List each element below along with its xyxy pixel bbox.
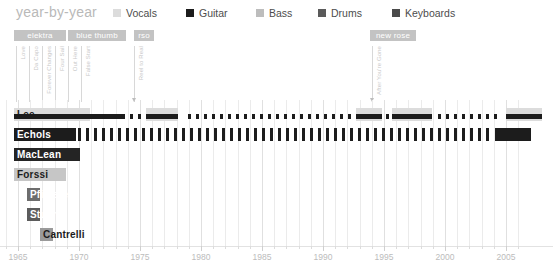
- timeline-row[interactable]: Echols: [0, 125, 553, 145]
- activity-segment: [446, 114, 449, 119]
- album-tick: [55, 46, 56, 102]
- activity-segment: [134, 128, 137, 141]
- album-title: Love: [20, 46, 26, 59]
- album-tick: [68, 46, 69, 102]
- activity-segment: [270, 128, 273, 141]
- axis-tick-minor: [42, 246, 43, 249]
- activity-segment: [206, 128, 209, 141]
- axis-tick-label: 1980: [192, 252, 211, 262]
- activity-segment: [334, 128, 337, 141]
- activity-segment: [252, 114, 255, 119]
- record-label-badge[interactable]: blue thumb: [68, 30, 126, 41]
- timeline-row[interactable]: Forssi: [0, 165, 553, 185]
- album-tick: [81, 46, 82, 102]
- activity-segment: [356, 114, 382, 119]
- legend-swatch-icon: [256, 9, 264, 17]
- axis-tick-minor: [482, 246, 483, 249]
- axis-tick-minor: [189, 246, 190, 249]
- activity-segment: [308, 114, 311, 119]
- timeline-plot: LeeEcholsMacLeanForssiPfistererStuartCan…: [0, 100, 553, 246]
- timeline-row[interactable]: Stuart: [0, 205, 553, 225]
- activity-segment: [332, 114, 335, 119]
- activity-segment: [386, 114, 389, 119]
- axis-tick-minor: [274, 246, 275, 249]
- album-tick: [16, 46, 17, 102]
- activity-segment: [316, 114, 319, 119]
- record-label-badge[interactable]: new rose: [370, 30, 416, 41]
- activity-segment: [342, 128, 345, 141]
- album-title: Four Sail: [59, 46, 65, 71]
- activity-segment: [506, 114, 542, 119]
- activity-segment: [260, 114, 263, 119]
- axis-tick-label: 1985: [253, 252, 272, 262]
- axis-tick-minor: [457, 246, 458, 249]
- axis-tick-minor: [469, 246, 470, 249]
- axis-tick-label: 1995: [375, 252, 394, 262]
- album-title: False Start: [85, 46, 91, 76]
- legend-item-drums[interactable]: Drums: [318, 6, 362, 20]
- timeline-row[interactable]: Lee: [0, 105, 553, 125]
- legend-swatch-icon: [392, 9, 400, 17]
- timeline-row[interactable]: Cantrelli: [0, 225, 553, 245]
- album-title: Da Capo: [33, 46, 39, 70]
- activity-segment: [102, 128, 105, 141]
- axis-tick-minor: [152, 246, 153, 249]
- axis-tick-minor: [347, 246, 348, 249]
- activity-segment: [366, 128, 369, 141]
- activity-segment: [462, 128, 465, 141]
- axis-tick-minor: [518, 246, 519, 249]
- axis-tick-minor: [360, 246, 361, 249]
- axis-tick-minor: [30, 246, 31, 249]
- annotation-band: elektrablue thumbrsonew roseLoveDa CapoF…: [0, 28, 553, 102]
- axis-tick-label: 1990: [314, 252, 333, 262]
- legend-item-bass[interactable]: Bass: [256, 6, 292, 20]
- record-label-badge[interactable]: rso: [134, 30, 154, 41]
- axis-tick-minor: [91, 246, 92, 249]
- activity-segment: [300, 114, 303, 119]
- axis-tick-minor: [225, 246, 226, 249]
- axis-tick-label: 2000: [436, 252, 455, 262]
- activity-segment: [374, 128, 377, 141]
- axis-tick-minor: [128, 246, 129, 249]
- activity-segment: [174, 128, 177, 141]
- activity-segment: [138, 114, 141, 119]
- axis-tick-major: [323, 246, 324, 251]
- activity-segment: [158, 128, 161, 141]
- activity-segment: [350, 128, 353, 141]
- activity-segment: [486, 128, 489, 141]
- axis-tick-major: [79, 246, 80, 251]
- axis-tick-label: 1970: [70, 252, 89, 262]
- activity-segment: [94, 128, 97, 141]
- axis-tick-minor: [250, 246, 251, 249]
- record-label-badge[interactable]: elektra: [14, 30, 66, 41]
- activity-segment: [214, 128, 217, 141]
- activity-segment: [262, 128, 265, 141]
- axis-tick-minor: [311, 246, 312, 249]
- activity-segment: [292, 114, 295, 119]
- activity-segment: [406, 128, 409, 141]
- activity-segment: [398, 128, 401, 141]
- legend-item-vocals[interactable]: Vocals: [113, 6, 157, 20]
- chart-title: year-by-year: [16, 4, 97, 20]
- legend-item-keyboards[interactable]: Keyboards: [392, 6, 455, 20]
- timeline-row[interactable]: Pfisterer: [0, 185, 553, 205]
- activity-segment: [86, 128, 89, 141]
- activity-segment: [236, 114, 239, 119]
- axis-tick-minor: [213, 246, 214, 249]
- axis-tick-minor: [494, 246, 495, 249]
- album-tick: [42, 46, 43, 102]
- member-name-label: Echols: [14, 128, 51, 141]
- legend-item-guitar[interactable]: Guitar: [186, 6, 228, 20]
- album-tick: [372, 46, 373, 102]
- activity-segment: [382, 128, 385, 141]
- legend-label: Guitar: [199, 7, 228, 19]
- activity-segment: [422, 128, 425, 141]
- x-axis: 196519701975198019851990199520002005: [0, 246, 553, 268]
- legend-label: Vocals: [126, 7, 157, 19]
- activity-segment: [470, 114, 473, 119]
- axis-tick-label: 1965: [9, 252, 28, 262]
- activity-segment: [284, 114, 287, 119]
- timeline-row[interactable]: MacLean: [0, 145, 553, 165]
- member-name-label: Stuart: [27, 208, 60, 221]
- activity-segment: [318, 128, 321, 141]
